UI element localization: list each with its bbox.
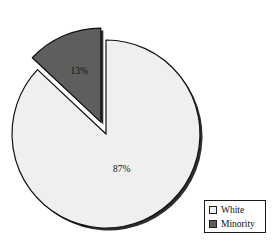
- legend-item-minority[interactable]: Minority: [209, 217, 265, 231]
- minority-slice-value-label: 13%: [70, 66, 88, 76]
- pie-slice-white[interactable]: [12, 40, 200, 228]
- chart-legend: White Minority: [204, 200, 266, 233]
- legend-label-white: White: [221, 203, 244, 217]
- pie-chart: 87% 13% White Minority: [0, 0, 275, 245]
- legend-item-white[interactable]: White: [209, 203, 265, 217]
- legend-label-minority: Minority: [221, 217, 255, 231]
- legend-swatch-minority-icon: [209, 220, 217, 228]
- white-slice-value-label: 87%: [113, 164, 131, 174]
- legend-swatch-white-icon: [209, 206, 217, 214]
